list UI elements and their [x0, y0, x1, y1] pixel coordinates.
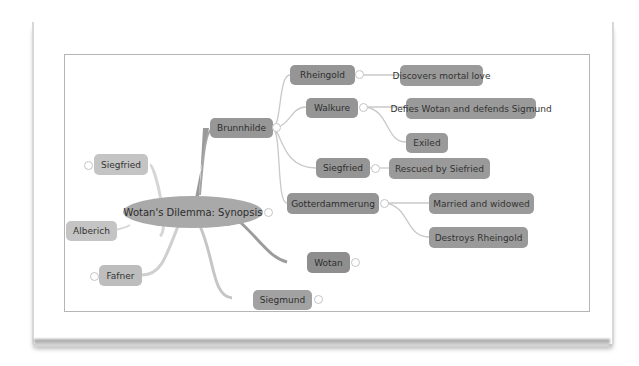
node-label: Gotterdammerung [291, 199, 375, 209]
node-label: Alberich [73, 226, 110, 236]
collapse-toggle-icon[interactable] [359, 103, 368, 112]
node-label: Siegfried [323, 163, 363, 173]
node-alberich[interactable]: Alberich [66, 221, 117, 241]
collapse-toggle-icon[interactable] [264, 208, 273, 217]
expand-toggle-icon[interactable] [84, 161, 93, 170]
node-label: Discovers mortal love [393, 71, 491, 81]
node-siegfried-character[interactable]: Siegfried [94, 154, 148, 175]
node-walkure[interactable]: Walkure [306, 98, 358, 118]
node-label: Married and widowed [433, 199, 530, 209]
node-discovers-mortal-love[interactable]: Discovers mortal love [400, 65, 483, 86]
node-siegmund[interactable]: Siegmund [253, 290, 312, 310]
collapse-toggle-icon[interactable] [380, 199, 389, 208]
node-siegfried-opera[interactable]: Siegfried [316, 158, 370, 178]
connector-lines [0, 0, 639, 366]
node-label: Rheingold [300, 70, 345, 80]
node-wotan[interactable]: Wotan [307, 252, 350, 273]
node-rescued-by-siefried[interactable]: Rescued by Siefried [389, 158, 490, 179]
node-destroys-rheingold[interactable]: Destroys Rheingold [429, 227, 528, 248]
node-label: Destroys Rheingold [435, 233, 523, 243]
node-label: Siegfried [101, 160, 141, 170]
collapse-toggle-icon[interactable] [355, 70, 364, 79]
node-gotterdammerung[interactable]: Gotterdammerung [287, 193, 379, 214]
node-label: Exiled [413, 138, 440, 148]
node-label: Walkure [314, 103, 350, 113]
node-rheingold[interactable]: Rheingold [290, 65, 355, 85]
node-label: Wotan [314, 258, 343, 268]
central-topic-label: Wotan's Dilemma: Synopsis [124, 207, 263, 218]
node-married-and-widowed[interactable]: Married and widowed [429, 193, 534, 214]
node-label: Rescued by Siefried [395, 164, 484, 174]
expand-toggle-icon[interactable] [314, 295, 323, 304]
expand-toggle-icon[interactable] [90, 272, 99, 281]
node-label: Brunnhilde [217, 123, 266, 133]
central-topic[interactable]: Wotan's Dilemma: Synopsis [123, 196, 263, 228]
node-exiled[interactable]: Exiled [406, 133, 448, 153]
node-brunnhilde[interactable]: Brunnhilde [210, 118, 273, 138]
collapse-toggle-icon[interactable] [371, 164, 380, 173]
node-fafner[interactable]: Fafner [99, 265, 142, 286]
node-label: Fafner [107, 271, 135, 281]
collapse-toggle-icon[interactable] [272, 123, 281, 132]
node-label: Defies Wotan and defends Sigmund [390, 104, 551, 114]
node-label: Siegmund [260, 295, 305, 305]
node-defies-wotan[interactable]: Defies Wotan and defends Sigmund [406, 98, 536, 119]
expand-toggle-icon[interactable] [351, 258, 360, 267]
